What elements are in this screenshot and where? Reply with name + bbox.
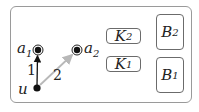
node-label-a2: a2 — [84, 39, 99, 59]
edge-u-a1 — [37, 56, 38, 86]
box-B2: B2 — [156, 14, 184, 50]
box-K1: K1 — [106, 56, 141, 72]
box-K2: K2 — [106, 28, 141, 44]
edge-label-2: 2 — [53, 67, 62, 83]
node-u — [33, 84, 40, 91]
node-label-a1: a1 — [17, 39, 32, 59]
box-B1: B1 — [156, 57, 184, 93]
node-label-u: u — [18, 80, 28, 98]
edge-label-1: 1 — [27, 62, 36, 78]
node-a1 — [33, 45, 43, 55]
node-a2 — [72, 45, 82, 55]
